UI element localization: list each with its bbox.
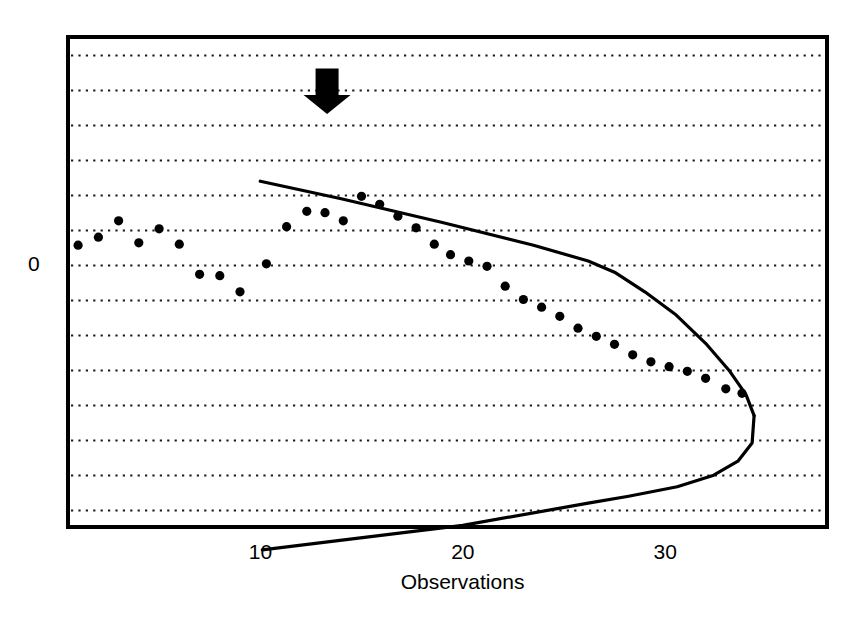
data-point (262, 259, 271, 268)
data-point (646, 357, 655, 366)
data-point (134, 238, 143, 247)
data-point (302, 207, 311, 216)
data-point (482, 262, 491, 271)
data-point (721, 384, 730, 393)
data-point (195, 270, 204, 279)
data-point (701, 374, 710, 383)
data-point (94, 233, 103, 242)
chart-annotations (304, 69, 351, 115)
chart-canvas (0, 0, 868, 627)
decision-boundary-upper (260, 181, 754, 416)
data-point (215, 271, 224, 280)
data-point (175, 240, 184, 249)
data-point (555, 312, 564, 321)
data-point (375, 200, 384, 209)
data-point (235, 287, 244, 296)
chart-figure: 10 20 30 Observations 0 (0, 0, 868, 627)
data-point (339, 216, 348, 225)
data-point (464, 256, 473, 265)
data-point (357, 192, 366, 201)
plot-frame (68, 37, 827, 527)
x-tick-label-20: 20 (451, 541, 474, 562)
data-point (519, 295, 528, 304)
data-point (446, 250, 455, 259)
data-point (282, 222, 291, 231)
data-point (628, 350, 637, 359)
data-point (665, 362, 674, 371)
data-point (501, 282, 510, 291)
decision-boundary-lower (262, 416, 754, 550)
data-point (155, 224, 164, 233)
data-point (737, 389, 746, 398)
data-point (537, 303, 546, 312)
data-point (592, 332, 601, 341)
out-of-control-arrow-icon (304, 69, 351, 115)
data-point (573, 324, 582, 333)
data-point (430, 240, 439, 249)
data-point (74, 241, 83, 250)
grid-lines (71, 56, 824, 511)
scatter-points (74, 192, 747, 398)
data-point (683, 367, 692, 376)
data-point (320, 208, 329, 217)
data-point (610, 340, 619, 349)
data-point (393, 212, 402, 221)
y-tick-label-0: 0 (28, 253, 40, 274)
x-tick-label-10: 10 (249, 541, 272, 562)
data-point (412, 223, 421, 232)
data-point (114, 216, 123, 225)
x-axis-title: Observations (401, 571, 525, 592)
x-tick-label-30: 30 (654, 541, 677, 562)
